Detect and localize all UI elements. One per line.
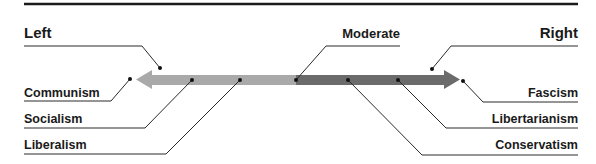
label-liberalism: Liberalism (24, 138, 87, 152)
leader-left (24, 46, 160, 68)
marker-socialism (190, 78, 194, 82)
label-socialism: Socialism (24, 112, 82, 126)
label-conservatism: Conservatism (495, 138, 578, 152)
arrow-left-segment (136, 70, 296, 89)
leader-moderate (296, 46, 400, 80)
spectrum-arrow (136, 70, 460, 89)
leader-right (432, 46, 578, 69)
header-right: Right (540, 24, 578, 41)
header-moderate: Moderate (342, 26, 400, 41)
header-left: Left (24, 24, 52, 41)
label-communism: Communism (24, 86, 100, 100)
arrow-right-segment (296, 70, 460, 89)
marker-communism (128, 77, 132, 81)
marker-liberalism (238, 78, 242, 82)
political-spectrum-diagram: Left Moderate Right Communism Socialism … (0, 0, 596, 164)
marker-fascism (461, 79, 465, 83)
marker-left (158, 66, 162, 70)
marker-right (430, 67, 434, 71)
marker-libertarianism (396, 78, 400, 82)
label-fascism: Fascism (528, 86, 578, 100)
label-libertarianism: Libertarianism (492, 112, 578, 126)
marker-conservatism (346, 78, 350, 82)
marker-moderate (294, 78, 298, 82)
